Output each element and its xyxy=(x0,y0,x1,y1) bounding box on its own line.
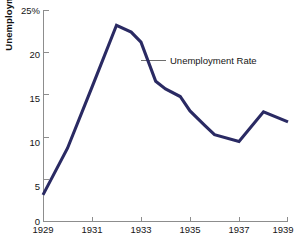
y-tick-label: 5 xyxy=(35,181,40,192)
y-axis-tick-labels: 25% 20 15 10 5 0 xyxy=(14,0,40,245)
chart-svg xyxy=(43,10,288,222)
x-tick-label: 1929 xyxy=(32,224,53,235)
x-tick-label: 1933 xyxy=(130,224,151,235)
y-tick-label: 10 xyxy=(29,137,40,148)
series-annotation-label: Unemployment Rate xyxy=(170,55,257,66)
y-tick-label: 25% xyxy=(21,5,40,16)
x-tick-label: 1935 xyxy=(179,224,200,235)
series-line-unemployment-rate xyxy=(43,25,288,195)
y-axis-title-label: Unemployment rate xyxy=(3,0,14,51)
chart-figure: Unemployment rate 25% 20 15 10 5 0 xyxy=(0,0,297,245)
x-tick-label: 1937 xyxy=(228,224,249,235)
x-tick-label: 1939 xyxy=(272,224,293,235)
x-tick-label: 1931 xyxy=(81,224,102,235)
y-tick-label: 15 xyxy=(29,93,40,104)
y-tick-label: 20 xyxy=(29,49,40,60)
x-axis-ticks xyxy=(44,217,288,222)
x-axis-tick-labels: 1929 1931 1933 1935 1937 1939 xyxy=(0,224,297,244)
plot-area xyxy=(43,10,288,222)
